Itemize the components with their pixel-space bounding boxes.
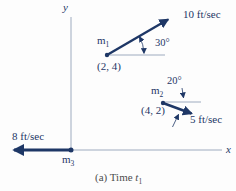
caption-subscript: 1 [138,177,142,186]
m1-velocity-label: 10 ft/sec [183,8,221,20]
x-axis-label: x [226,143,231,155]
m1-point [105,53,109,57]
m2-velocity-label: 5 ft/sec [190,113,222,125]
m2-velocity-arrow [163,103,192,114]
y-axis-label: y [63,1,68,13]
m1-position-label: (2, 4) [97,60,121,72]
m2-symbol: m [151,84,160,96]
figure-caption: (a) Time t1 [95,171,142,183]
m2-label: m2 [151,84,163,96]
m2-position-label: (4, 2) [141,104,165,116]
m1-angle-label: 30° [155,37,170,49]
m3-subscript: 3 [71,159,75,168]
diagram-canvas [0,0,236,191]
m2-subscript: 2 [160,90,164,99]
m1-angle-arc [140,37,145,53]
m1-label: m1 [97,34,109,46]
m3-label: m3 [62,153,74,165]
kinematics-figure: y x 10 ft/sec m1 30° (2, 4) 20° m2 (4, 2… [0,0,236,191]
caption-prefix: (a) Time [95,171,135,183]
m1-subscript: 1 [106,40,110,49]
m1-symbol: m [97,34,106,46]
m2-angle-leader-top [182,88,184,98]
m3-symbol: m [62,153,71,165]
m3-point [69,148,74,153]
m3-velocity-label: 8 ft/sec [12,130,44,142]
m2-angle-label: 20° [167,75,182,87]
m2-angle-leader-bottom [173,115,179,128]
